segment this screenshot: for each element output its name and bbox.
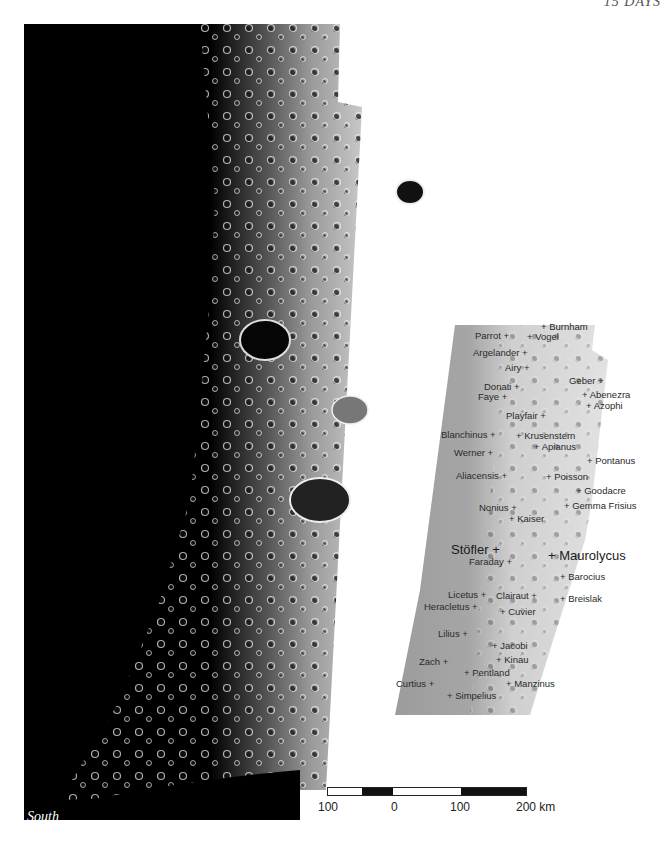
crater-label: Aliacensis + xyxy=(456,471,507,481)
scale-tick-100-left: 100 xyxy=(318,800,338,814)
crater-label: Heracletus + xyxy=(424,602,478,612)
scale-tick-0: 0 xyxy=(391,800,398,814)
crater-label: Clairaut + xyxy=(496,591,537,601)
scale-tick-200-km: 200 km xyxy=(516,800,555,814)
crater-label: + Breislak xyxy=(560,594,602,604)
crater-label: Curtius + xyxy=(396,679,434,689)
scale-segment xyxy=(328,788,362,795)
crater-label: Licetus + xyxy=(448,590,486,600)
crater-label: + Simpelius xyxy=(447,691,496,701)
crater-label: + Pentland xyxy=(464,668,510,678)
crater-label: + Azophi xyxy=(586,401,623,411)
scale-bar xyxy=(327,787,527,796)
crater-label: + Maurolycus xyxy=(548,549,626,562)
scale-segment xyxy=(461,788,526,795)
crater-label: + Abenezra xyxy=(582,390,630,400)
crater-label: + Vogel xyxy=(527,332,559,342)
crater-label: + Goodacre xyxy=(576,486,626,496)
crater-label: Blanchinus + xyxy=(441,430,496,440)
scale-segment xyxy=(393,788,460,795)
crater-label: Stöfler + xyxy=(451,543,500,556)
crater-label: Faraday + xyxy=(469,557,512,567)
crater-label: Lilius + xyxy=(438,629,468,639)
south-label: South xyxy=(27,809,59,825)
crater-label: + Poisson xyxy=(546,472,588,482)
crater-label: Argelander + xyxy=(473,348,528,358)
scale-tick-100-right: 100 xyxy=(450,800,470,814)
crater-label: + Kinau xyxy=(496,655,529,665)
crater-label: + Pontanus xyxy=(587,456,635,466)
crater-label: Airy + xyxy=(505,363,530,373)
scale-segment xyxy=(362,788,394,795)
crater-label: + Cuvier xyxy=(500,607,536,617)
crater-label: Nonius + xyxy=(479,503,517,513)
crater-label: Werner + xyxy=(454,448,493,458)
crater-label: + Barocius xyxy=(560,572,605,582)
crater-label: + Manzinus xyxy=(506,679,555,689)
moon-photograph xyxy=(0,0,669,843)
crater-label: + Kaiser xyxy=(509,514,544,524)
crater-label: Playfair + xyxy=(506,411,546,421)
crater-label: + Apianus xyxy=(534,442,576,452)
crater-label: + Krusenstern xyxy=(516,431,575,441)
crater-label: Parrot + xyxy=(475,331,509,341)
crater-label: Faye + xyxy=(478,392,507,402)
crater-label: Geber + xyxy=(569,376,604,386)
crater-label: + Gemma Frisius xyxy=(564,501,637,511)
crater-label: + Jacobi xyxy=(492,641,528,651)
crater-label: Zach + xyxy=(419,657,448,667)
